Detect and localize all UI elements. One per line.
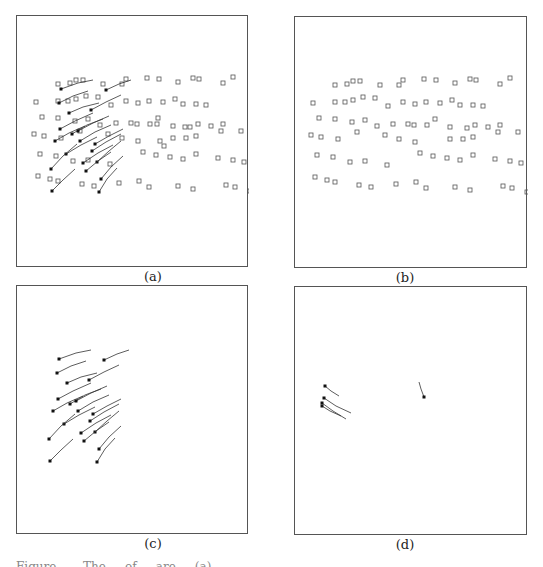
- trajectory-start-dot: [323, 397, 326, 400]
- trajectory-line: [325, 386, 339, 396]
- trajectory-start-dot: [88, 379, 91, 382]
- trajectory-start-dot: [75, 400, 78, 403]
- marker-square: [197, 77, 201, 81]
- trajectory-start-dot: [90, 109, 93, 112]
- marker-square: [108, 162, 112, 166]
- marker-square: [239, 129, 243, 133]
- trajectory-line: [324, 398, 351, 413]
- marker-square: [136, 101, 140, 105]
- trajectory-start-dot: [96, 461, 99, 464]
- marker-square: [333, 83, 337, 87]
- marker-square: [448, 125, 452, 129]
- trajectory-start-dot: [423, 396, 426, 399]
- marker-square: [176, 80, 180, 84]
- marker-square: [109, 103, 113, 107]
- marker-square: [42, 134, 46, 138]
- marker-square: [424, 186, 428, 190]
- marker-square: [508, 76, 512, 80]
- marker-square: [173, 97, 177, 101]
- trajectory-start-dot: [85, 170, 88, 173]
- marker-square: [358, 79, 362, 83]
- panel-c-plot: [17, 286, 249, 535]
- marker-square: [311, 101, 315, 105]
- marker-square: [350, 120, 354, 124]
- marker-square: [363, 159, 367, 163]
- trajectory-start-dot: [105, 89, 108, 92]
- marker-square: [468, 77, 472, 81]
- trajectory-start-dot: [59, 128, 62, 131]
- trajectory-start-dot: [56, 372, 59, 375]
- marker-square: [74, 78, 78, 82]
- marker-square: [38, 152, 42, 156]
- marker-square: [184, 136, 188, 140]
- trajectory-start-dot: [51, 190, 54, 193]
- marker-square: [194, 102, 198, 106]
- marker-square: [458, 158, 462, 162]
- trajectory-start-dot: [94, 143, 97, 146]
- trajectory-line: [59, 350, 91, 359]
- marker-square: [351, 79, 355, 83]
- marker-square: [345, 82, 349, 86]
- marker-square: [168, 155, 172, 159]
- marker-square: [434, 78, 438, 82]
- trajectory-start-dot: [77, 410, 80, 413]
- marker-square: [498, 82, 502, 86]
- marker-square: [162, 144, 166, 148]
- marker-square: [54, 154, 58, 158]
- panel-d: [294, 286, 527, 535]
- trajectory-line: [419, 382, 424, 397]
- marker-square: [474, 78, 478, 82]
- marker-square: [317, 116, 321, 120]
- marker-square: [385, 163, 389, 167]
- marker-square: [196, 122, 200, 126]
- marker-square: [325, 178, 329, 182]
- marker-square: [386, 104, 390, 108]
- marker-square: [461, 137, 465, 141]
- marker-square: [413, 102, 417, 106]
- marker-square: [242, 160, 246, 164]
- marker-square: [71, 159, 75, 163]
- marker-square: [120, 136, 124, 140]
- marker-square: [397, 137, 401, 141]
- marker-square: [86, 117, 90, 121]
- marker-square: [333, 100, 337, 104]
- marker-square: [333, 180, 337, 184]
- marker-square: [336, 137, 340, 141]
- panel-c-label: (c): [123, 536, 183, 551]
- marker-square: [406, 122, 410, 126]
- panel-b-plot: [295, 17, 528, 269]
- marker-square: [373, 96, 377, 100]
- marker-square: [397, 83, 401, 87]
- trajectory-start-dot: [71, 133, 74, 136]
- trajectory-line: [93, 399, 121, 414]
- marker-square: [355, 130, 359, 134]
- marker-square: [498, 123, 502, 127]
- trajectory-line: [89, 365, 119, 380]
- marker-square: [32, 132, 36, 136]
- marker-square: [114, 121, 118, 125]
- marker-square: [147, 99, 151, 103]
- marker-square: [309, 133, 313, 137]
- marker-square: [74, 97, 78, 101]
- trajectory-line: [49, 414, 75, 439]
- marker-square: [171, 124, 175, 128]
- trajectory-start-dot: [50, 168, 53, 171]
- trajectory-line: [95, 129, 123, 144]
- marker-square: [56, 82, 60, 86]
- marker-square: [124, 99, 128, 103]
- marker-square: [450, 98, 454, 102]
- marker-square: [171, 136, 175, 140]
- marker-square: [219, 129, 223, 133]
- marker-square: [458, 103, 462, 107]
- trajectory-line: [322, 406, 341, 416]
- marker-square: [176, 184, 180, 188]
- marker-square: [98, 123, 102, 127]
- trajectory-start-dot: [69, 403, 72, 406]
- marker-square: [510, 186, 514, 190]
- marker-square: [194, 152, 198, 156]
- marker-square: [361, 95, 365, 99]
- marker-square: [68, 81, 72, 85]
- marker-square: [468, 188, 472, 192]
- marker-square: [471, 135, 475, 139]
- marker-square: [80, 182, 84, 186]
